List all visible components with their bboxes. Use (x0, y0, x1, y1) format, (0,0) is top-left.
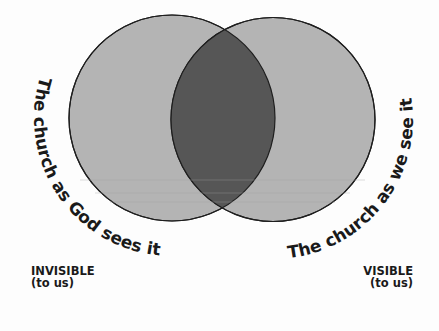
caption-visible-sub: (to us) (350, 277, 413, 289)
caption-invisible: INVISIBLE (to us) (31, 265, 95, 289)
caption-visible: VISIBLE (to us) (350, 265, 413, 289)
venn-diagram: The church as God sees it The church as … (0, 0, 439, 331)
caption-invisible-sub: (to us) (31, 277, 95, 289)
